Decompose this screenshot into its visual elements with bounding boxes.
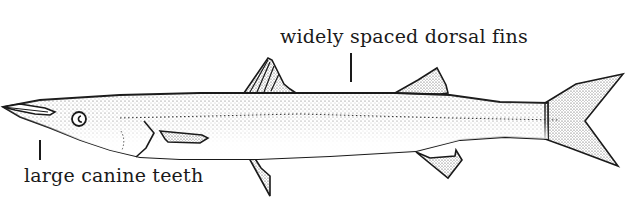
pelvic-fin xyxy=(249,157,270,196)
anal-fin xyxy=(416,150,462,178)
fish-illustration: widely spaced dorsal fins large canine t… xyxy=(0,0,640,213)
dorsal-fins-label: widely spaced dorsal fins xyxy=(280,25,528,47)
canine-teeth-label: large canine teeth xyxy=(24,164,203,186)
second-dorsal-fin xyxy=(395,68,448,94)
